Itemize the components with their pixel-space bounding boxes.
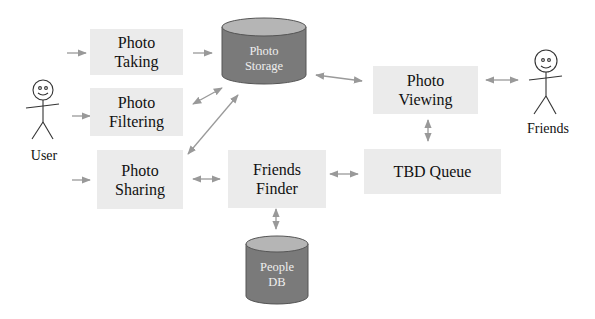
user-label: User xyxy=(22,148,66,164)
photo-viewing-label: Photo Viewing xyxy=(398,71,452,109)
process-friends-finder: Friends Finder xyxy=(228,150,326,208)
process-photo-sharing: Photo Sharing xyxy=(97,150,183,209)
friends-actor-icon xyxy=(529,50,562,114)
arrow-filtering-storage xyxy=(193,88,222,104)
process-photo-taking: Photo Taking xyxy=(90,29,183,75)
photo-filtering-label: Photo Filtering xyxy=(109,93,164,131)
friends-finder-label: Friends Finder xyxy=(253,160,301,198)
photo-sharing-label: Photo Sharing xyxy=(115,161,165,199)
process-tbd-queue: TBD Queue xyxy=(364,149,501,194)
photo-taking-label: Photo Taking xyxy=(114,33,158,71)
friends-label: Friends xyxy=(520,121,576,137)
arrow-sharing-storage xyxy=(188,95,238,154)
photo-storage-label: Photo Storage xyxy=(222,44,306,74)
process-photo-filtering: Photo Filtering xyxy=(90,88,183,136)
people-db-label: People DB xyxy=(246,260,308,290)
user-actor-icon xyxy=(26,80,59,139)
tbd-queue-label: TBD Queue xyxy=(394,162,472,181)
process-photo-viewing: Photo Viewing xyxy=(373,66,478,114)
store-people-db: People DB xyxy=(246,254,308,294)
arrow-storage-viewing xyxy=(316,75,362,81)
store-photo-storage: Photo Storage xyxy=(222,38,306,78)
